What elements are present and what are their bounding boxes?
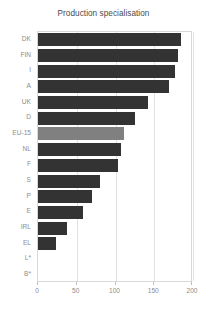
y-tick-label-d: D bbox=[26, 113, 31, 121]
plot-area bbox=[37, 31, 192, 282]
y-tick-label-e: E bbox=[27, 207, 31, 215]
chart-title: Production specialisation bbox=[0, 9, 207, 18]
y-tick-label-el: EL bbox=[23, 239, 31, 247]
y-tick-label-irl: IRL bbox=[21, 223, 31, 231]
y-tick-label-b: B* bbox=[24, 270, 31, 278]
bar-i bbox=[38, 65, 175, 78]
x-tick-mark-0 bbox=[37, 282, 38, 285]
x-tick-mark-150 bbox=[153, 282, 154, 285]
x-tick-label-100: 100 bbox=[109, 287, 120, 294]
y-tick-label-fin: FIN bbox=[20, 51, 31, 59]
bar-uk bbox=[38, 96, 148, 109]
bar-row bbox=[38, 80, 193, 93]
y-tick-label-nl: NL bbox=[23, 145, 31, 153]
bar-row bbox=[38, 206, 193, 219]
bar-row bbox=[38, 159, 193, 172]
bar-row bbox=[38, 143, 193, 156]
bar-dk bbox=[38, 33, 181, 46]
bar-row bbox=[38, 96, 193, 109]
bar-series bbox=[38, 32, 191, 281]
bar-row bbox=[38, 237, 193, 250]
y-tick-label-p: P bbox=[27, 192, 31, 200]
bar-row bbox=[38, 33, 193, 46]
bar-el bbox=[38, 237, 56, 250]
bar-eu-15 bbox=[38, 127, 124, 140]
y-tick-label-i: I bbox=[29, 66, 31, 74]
bar-d bbox=[38, 112, 135, 125]
bar-s bbox=[38, 175, 100, 188]
bar-row bbox=[38, 65, 193, 78]
x-tick-mark-200 bbox=[191, 282, 192, 285]
bar-row bbox=[38, 190, 193, 203]
x-tick-label-0: 0 bbox=[35, 287, 39, 294]
y-tick-label-a: A bbox=[27, 82, 31, 90]
bar-e bbox=[38, 206, 83, 219]
bar-row bbox=[38, 175, 193, 188]
x-tick-label-200: 200 bbox=[186, 287, 197, 294]
y-tick-label-f: F bbox=[27, 160, 31, 168]
x-tick-mark-100 bbox=[115, 282, 116, 285]
y-tick-label-uk: UK bbox=[22, 98, 31, 106]
x-tick-label-150: 150 bbox=[148, 287, 159, 294]
y-axis-category-labels: DKFINIAUKDEU-15NLFSPEIRLELL*B* bbox=[0, 31, 34, 282]
gridline-200 bbox=[193, 32, 194, 281]
bar-row bbox=[38, 112, 193, 125]
bar-a bbox=[38, 80, 169, 93]
bar-p bbox=[38, 190, 92, 203]
bar-row bbox=[38, 49, 193, 62]
x-tick-label-50: 50 bbox=[72, 287, 79, 294]
bar-nl bbox=[38, 143, 121, 156]
bar-row bbox=[38, 253, 193, 266]
bar-row bbox=[38, 269, 193, 282]
bar-irl bbox=[38, 222, 67, 235]
y-tick-label-l: L* bbox=[25, 254, 31, 262]
bar-row bbox=[38, 127, 193, 140]
y-tick-label-eu-15: EU-15 bbox=[12, 129, 31, 137]
bar-f bbox=[38, 159, 118, 172]
x-tick-mark-50 bbox=[76, 282, 77, 285]
chart-figure: Production specialisation DKFINIAUKDEU-1… bbox=[0, 0, 207, 313]
bar-fin bbox=[38, 49, 178, 62]
y-tick-label-s: S bbox=[27, 176, 31, 184]
bar-row bbox=[38, 222, 193, 235]
x-axis: 050100150200 bbox=[37, 282, 192, 308]
y-tick-label-dk: DK bbox=[22, 35, 31, 43]
